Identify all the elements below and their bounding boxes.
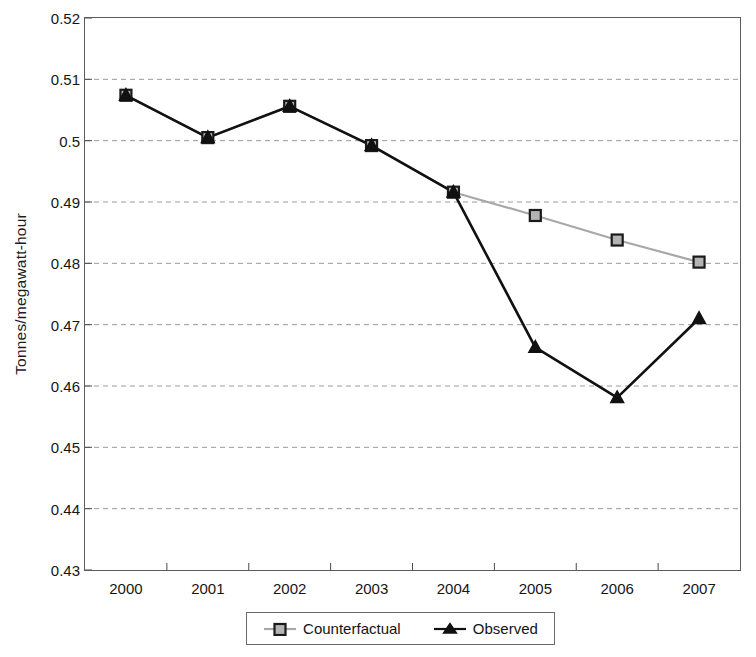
data-point-observed — [529, 341, 542, 353]
legend-label: Counterfactual — [303, 620, 401, 637]
x-axis-tick-label: 2000 — [109, 580, 142, 598]
legend-entry-counterfactual[interactable]: Counterfactual — [263, 620, 401, 637]
x-axis-tick-labels: 20002001200220032004200520062007 — [84, 580, 741, 604]
legend-square-marker-icon — [263, 622, 297, 636]
x-axis-tick-label: 2005 — [519, 580, 552, 598]
y-axis-tick-label: 0.49 — [36, 195, 80, 210]
plot-canvas — [85, 18, 740, 570]
legend-marker — [275, 624, 286, 635]
data-point-observed — [693, 312, 706, 324]
y-axis-title-label: Tonnes/megawatt-hour — [12, 213, 30, 375]
y-axis-tick-labels: 0.430.440.450.460.470.480.490.50.510.52 — [36, 17, 80, 571]
x-axis-tick-label: 2006 — [601, 580, 634, 598]
y-axis-title: Tonnes/megawatt-hour — [6, 0, 36, 588]
data-point-counterfactual — [694, 257, 705, 268]
plot-area — [84, 17, 741, 571]
y-axis-tick-label: 0.47 — [36, 317, 80, 332]
y-axis-tick-label: 0.48 — [36, 256, 80, 271]
y-axis-tick-label: 0.51 — [36, 72, 80, 87]
y-axis-tick-label: 0.46 — [36, 379, 80, 394]
chart-legend: CounterfactualObserved — [246, 612, 555, 645]
y-axis-tick-label: 0.45 — [36, 440, 80, 455]
x-axis-tick-label: 2002 — [273, 580, 306, 598]
y-axis-tick-label: 0.52 — [36, 11, 80, 26]
legend-entry-observed[interactable]: Observed — [433, 620, 538, 637]
data-point-counterfactual — [530, 210, 541, 221]
chart-figure: Tonnes/megawatt-hour 0.430.440.450.460.4… — [0, 0, 756, 657]
y-axis-tick-label: 0.44 — [36, 501, 80, 516]
x-axis-tick-label: 2001 — [191, 580, 224, 598]
x-axis-tick-label: 2003 — [355, 580, 388, 598]
x-axis-tick-label: 2007 — [682, 580, 715, 598]
data-point-counterfactual — [612, 235, 623, 246]
legend-triangle-marker-icon — [433, 622, 467, 636]
y-axis-tick-label: 0.5 — [36, 133, 80, 148]
x-axis-tick-label: 2004 — [437, 580, 470, 598]
legend-label: Observed — [473, 620, 538, 637]
y-axis-tick-label: 0.43 — [36, 563, 80, 578]
